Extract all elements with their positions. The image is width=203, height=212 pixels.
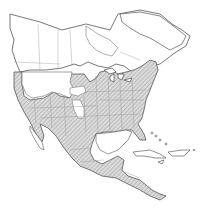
gulf-of-mexico bbox=[96, 130, 132, 154]
north-america-map bbox=[0, 0, 203, 212]
excluded-northern-plains bbox=[22, 72, 74, 98]
range-map: Range map bbox=[0, 0, 203, 212]
